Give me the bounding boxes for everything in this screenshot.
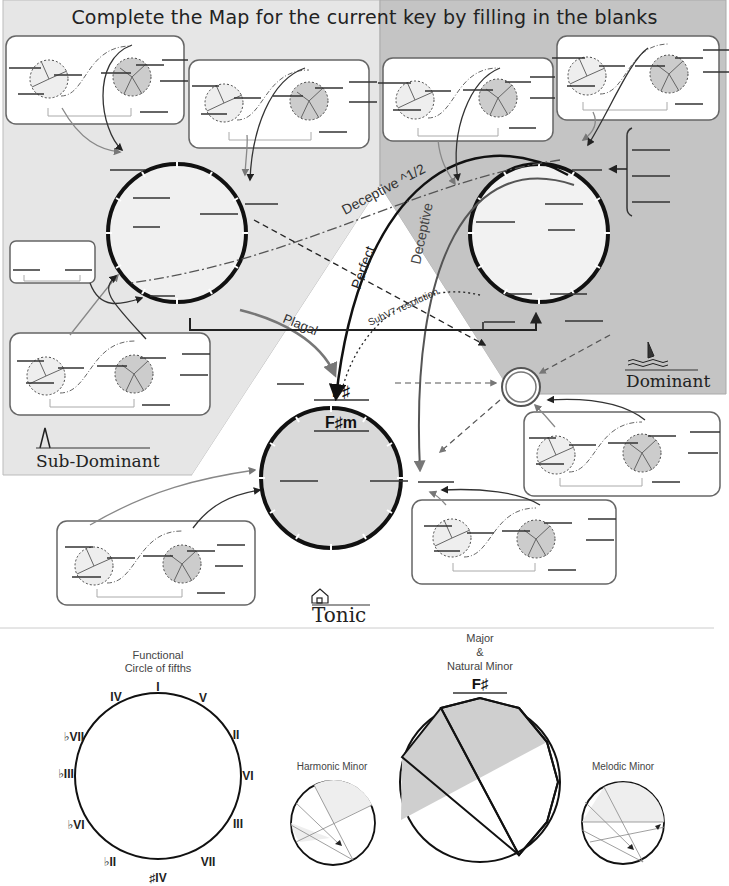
major-title-3: Natural Minor — [447, 660, 513, 672]
tonic-minor-key: F♯m — [325, 414, 357, 431]
functional-circle-of-fifths: Functional Circle of fifths I V II VI II… — [58, 649, 254, 885]
diagram-canvas: Deceptive ^1/2 Perfect Deceptive Plagal … — [0, 0, 729, 886]
functional-circle-title-2: Circle of fifths — [125, 662, 192, 674]
harmonic-minor-title: Harmonic Minor — [297, 761, 368, 772]
degree-III: III — [233, 817, 243, 831]
major-key-label: F♯ — [472, 675, 489, 692]
degree-flat-VII: ♭VII — [64, 730, 84, 744]
degree-II: II — [233, 728, 240, 742]
melodic-minor-diagram: Melodic Minor — [582, 761, 665, 864]
melodic-minor-title: Melodic Minor — [592, 761, 655, 772]
mini-box-3 — [378, 58, 555, 141]
tonic-label: Tonic — [312, 603, 366, 627]
harmonic-minor-diagram: Harmonic Minor — [291, 761, 375, 865]
degree-IV: IV — [110, 690, 121, 704]
degree-VI: VI — [242, 769, 253, 783]
major-title-2: & — [476, 646, 484, 658]
secondary-dominant-node — [502, 368, 540, 406]
degree-sharp-IV: ♯IV — [149, 871, 166, 885]
degree-flat-II: ♭II — [104, 855, 116, 869]
tonic-major-key: F♯ — [332, 383, 350, 400]
degree-flat-VI: ♭VI — [68, 818, 85, 832]
major-title-1: Major — [466, 632, 494, 644]
page-title: Complete the Map for the current key by … — [0, 6, 729, 28]
major-natural-minor-diagram: Major & Natural Minor F♯ — [400, 632, 560, 862]
mini-box-6 — [10, 333, 210, 415]
degree-V: V — [199, 691, 207, 705]
degree-VII: VII — [201, 855, 216, 869]
subdominant-label: Sub-Dominant — [36, 451, 160, 471]
mini-box-5 — [10, 241, 95, 283]
mini-box-9 — [412, 500, 616, 584]
degree-flat-III: ♭III — [58, 767, 74, 781]
degree-I: I — [156, 680, 159, 694]
mini-box-4 — [552, 36, 729, 120]
mini-box-2 — [189, 60, 377, 148]
mini-box-1 — [6, 36, 188, 124]
functional-circle-title-1: Functional — [133, 649, 184, 661]
functional-harmony-map: Deceptive ^1/2 Perfect Deceptive Plagal … — [0, 0, 729, 886]
dominant-label: Dominant — [626, 371, 710, 391]
mini-box-7 — [57, 521, 255, 605]
